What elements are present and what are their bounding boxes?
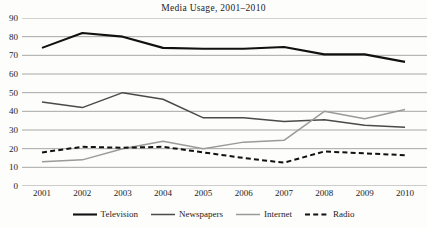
x-axis-tick-label: 2009 xyxy=(356,188,374,198)
legend-swatch-icon xyxy=(151,210,175,219)
legend-label: Television xyxy=(101,209,138,219)
series-line-radio xyxy=(42,147,405,163)
legend-item-internet[interactable]: Internet xyxy=(236,209,292,219)
x-axis-tick-label: 2004 xyxy=(154,188,172,198)
legend-swatch-icon xyxy=(236,210,260,219)
legend-label: Radio xyxy=(333,209,355,219)
x-axis-tick-label: 2001 xyxy=(33,188,51,198)
y-axis-tick-label: 80 xyxy=(9,32,18,42)
legend-label: Internet xyxy=(264,209,292,219)
y-axis-tick-label: 60 xyxy=(9,69,18,79)
legend-swatch-icon xyxy=(73,210,97,219)
y-axis-tick-label: 10 xyxy=(9,162,18,172)
y-axis: 9080706050403020100 xyxy=(0,18,20,186)
media-usage-line-chart: Media Usage, 2001–2010 90807060504030201… xyxy=(0,0,427,228)
legend-item-newspapers[interactable]: Newspapers xyxy=(151,209,223,219)
x-axis-tick-label: 2002 xyxy=(73,188,91,198)
series-line-newspapers xyxy=(42,93,405,128)
y-axis-tick-label: 30 xyxy=(9,125,18,135)
y-axis-tick-label: 20 xyxy=(9,144,18,154)
y-axis-tick-label: 0 xyxy=(14,181,19,191)
chart-title: Media Usage, 2001–2010 xyxy=(0,3,427,13)
y-axis-tick-label: 40 xyxy=(9,106,18,116)
legend-swatch-icon xyxy=(305,210,329,219)
x-axis-tick-label: 2007 xyxy=(275,188,293,198)
series-line-television xyxy=(42,33,405,62)
x-axis-tick-label: 2010 xyxy=(396,188,414,198)
x-axis-tick-label: 2003 xyxy=(114,188,132,198)
x-axis-tick-label: 2005 xyxy=(194,188,212,198)
plot-area xyxy=(22,18,427,186)
y-axis-tick-label: 50 xyxy=(9,88,18,98)
chart-legend: TelevisionNewspapersInternetRadio xyxy=(0,205,427,223)
y-axis-tick-label: 70 xyxy=(9,50,18,60)
legend-label: Newspapers xyxy=(179,209,223,219)
legend-item-television[interactable]: Television xyxy=(73,209,138,219)
x-axis-tick-label: 2008 xyxy=(315,188,333,198)
y-axis-tick-label: 90 xyxy=(9,13,18,23)
legend-item-radio[interactable]: Radio xyxy=(305,209,355,219)
x-axis-tick-label: 2006 xyxy=(235,188,253,198)
x-axis: 2001200220032004200520062007200820092010 xyxy=(22,188,427,202)
plot-canvas xyxy=(22,18,427,186)
